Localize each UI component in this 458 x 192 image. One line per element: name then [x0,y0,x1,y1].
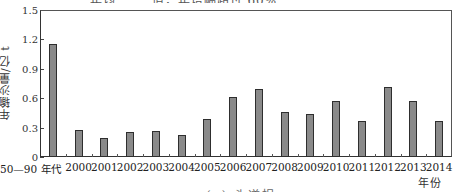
x-tick-mark [426,154,427,157]
x-tick-mark [195,154,196,157]
bar [49,44,57,157]
x-tick-mark [375,154,376,157]
x-tick-mark [143,154,144,157]
x-tick-mark [246,154,247,157]
y-tick-label: 0.6 [14,93,38,104]
bar [178,135,186,157]
x-tick-mark [169,154,170,157]
x-tick-label: 2008 [271,161,298,173]
x-tick-mark [401,154,402,157]
y-tick-label: 0.9 [14,63,38,74]
bar [409,101,417,157]
x-tick-label: 2007 [246,161,273,173]
bar [306,114,314,157]
x-tick-label: 2002 [117,161,144,173]
bar [229,97,237,157]
x-tick-label: 2011 [349,161,376,173]
top-clipped-text: 年均 …… 值，年增幅超过 60% [90,0,450,3]
figure-caption: (a) 头道拐 [206,186,276,192]
bar [75,130,83,157]
bar [281,112,289,157]
x-tick-mark [272,154,273,157]
bar [203,119,211,157]
x-tick-mark [66,154,67,157]
x-tick-label: 2005 [194,161,221,173]
y-tick-label: 1.2 [14,34,38,45]
bar [126,132,134,157]
x-tick-mark [92,154,93,157]
bar [100,138,108,157]
x-tick-label: 2004 [168,161,195,173]
x-axis-label: 年份 [418,174,442,190]
x-tick-label: 2009 [297,161,324,173]
x-tick-mark [220,154,221,157]
x-tick-label: 2014 [426,161,453,173]
x-tick-label: 2006 [220,161,247,173]
y-tick-label: 0.3 [14,122,38,133]
x-tick-label: 2013 [400,161,427,173]
x-tick-mark [298,154,299,157]
bar [358,121,366,157]
x-tick-mark [323,154,324,157]
y-tick-mark [40,157,44,158]
x-tick-label: 2012 [374,161,401,173]
bar [435,121,443,157]
bar [152,131,160,157]
x-tick-label: 2003 [143,161,170,173]
bar [332,101,340,157]
x-tick-mark [349,154,350,157]
y-tick-label: 1.5 [14,5,38,16]
x-tick-label: 2000 [65,161,92,173]
x-tick-mark [117,154,118,157]
bar [255,89,263,157]
x-tick-label: 2001 [91,161,118,173]
bar [384,87,392,157]
x-tick-label: 50—90 年代 [0,161,61,176]
x-tick-label: 2010 [323,161,350,173]
